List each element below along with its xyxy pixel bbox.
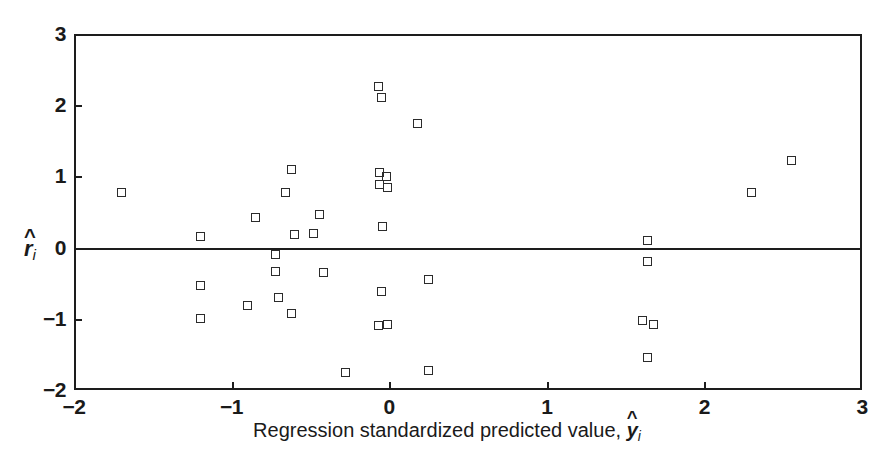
x-tick-mark — [389, 382, 391, 390]
y-tick-label: 2 — [20, 94, 66, 115]
data-point-marker — [787, 156, 796, 165]
y-tick-mark — [74, 248, 82, 250]
data-point-marker — [196, 314, 205, 323]
data-point-marker — [117, 188, 126, 197]
x-tick-mark — [547, 382, 549, 390]
data-point-marker — [271, 250, 280, 259]
data-point-marker — [271, 267, 280, 276]
x-tick-label: 1 — [527, 396, 567, 417]
x-axis-label-text: Regression standardized predicted value, — [253, 419, 627, 441]
x-tick-label: 0 — [369, 396, 409, 417]
x-tick-mark — [704, 382, 706, 390]
subscript-i: i — [33, 246, 36, 263]
data-point-marker — [413, 119, 422, 128]
y-axis-label: ^ri — [24, 238, 36, 263]
x-tick-label: 2 — [684, 396, 724, 417]
data-point-marker — [383, 320, 392, 329]
data-point-marker — [319, 268, 328, 277]
data-point-marker — [287, 309, 296, 318]
data-point-marker — [274, 293, 283, 302]
data-point-marker — [638, 316, 647, 325]
data-point-marker — [377, 93, 386, 102]
r-hat-symbol: ^r — [24, 238, 33, 260]
data-point-marker — [424, 275, 433, 284]
y-tick-label: −1 — [20, 308, 66, 329]
data-point-marker — [309, 229, 318, 238]
circumflex-accent-icon: ^ — [627, 409, 638, 427]
data-point-marker — [341, 368, 350, 377]
data-point-marker — [424, 366, 433, 375]
subscript-i: i — [638, 428, 641, 444]
y-tick-mark — [74, 176, 82, 178]
data-point-marker — [649, 320, 658, 329]
data-point-marker — [281, 188, 290, 197]
scatter-plot-figure: −2−10123 −2−10123 Regression standardize… — [0, 0, 894, 466]
y-tick-mark — [74, 319, 82, 321]
x-axis-label: Regression standardized predicted value,… — [0, 420, 894, 443]
data-point-marker — [196, 232, 205, 241]
zero-reference-line — [74, 248, 862, 250]
data-point-marker — [251, 213, 260, 222]
data-point-marker — [377, 287, 386, 296]
data-point-marker — [643, 236, 652, 245]
y-tick-label: 1 — [20, 165, 66, 186]
data-point-marker — [243, 301, 252, 310]
data-point-marker — [374, 321, 383, 330]
data-point-marker — [315, 210, 324, 219]
y-tick-label: −2 — [20, 379, 66, 400]
data-point-marker — [196, 281, 205, 290]
x-tick-mark — [232, 382, 234, 390]
y-tick-mark — [74, 105, 82, 107]
data-point-marker — [747, 188, 756, 197]
data-point-marker — [643, 257, 652, 266]
x-tick-label: −1 — [212, 396, 252, 417]
data-point-marker — [643, 353, 652, 362]
x-tick-label: 3 — [842, 396, 882, 417]
data-point-marker — [290, 230, 299, 239]
data-point-marker — [383, 183, 392, 192]
circumflex-accent-icon: ^ — [24, 226, 33, 246]
y-hat-symbol: ^y — [627, 420, 638, 440]
data-point-marker — [378, 222, 387, 231]
plot-frame — [74, 34, 862, 390]
y-tick-label: 3 — [20, 23, 66, 44]
data-point-marker — [374, 82, 383, 91]
data-point-marker — [287, 165, 296, 174]
